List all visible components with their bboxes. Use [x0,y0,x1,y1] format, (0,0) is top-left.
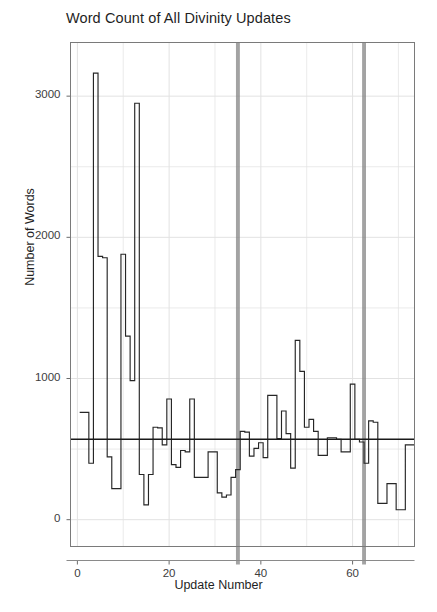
x-tick-label: 20 [149,567,189,579]
x-tick-label: 60 [333,567,373,579]
y-tick-label: 1000 [17,371,61,383]
y-tick-label: 2000 [17,229,61,241]
plot-svg [0,0,437,612]
y-tick-label: 3000 [17,88,61,100]
y-tick-label: 0 [17,512,61,524]
x-axis-label: Update Number [0,578,437,592]
x-tick-label: 0 [57,567,97,579]
chart-title: Word Count of All Divinity Updates [66,10,291,26]
chart-container: Word Count of All Divinity Updates Numbe… [0,0,437,612]
x-tick-label: 40 [241,567,281,579]
